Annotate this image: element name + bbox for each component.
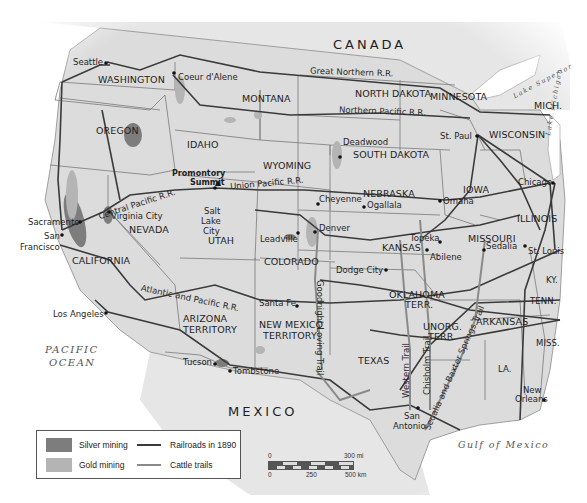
city-denver: Denver [319,224,350,233]
label-iowa: IOWA [463,185,489,195]
city-san-francisco-1: San [44,232,60,241]
city-santa-fe: Santa Fe [259,299,296,308]
label-wisconsin: WISCONSIN [489,130,545,140]
label-minnesota: MINNESOTA [430,92,487,102]
scale-mi-end: 300 mi [344,452,364,459]
label-texas: TEXAS [358,356,389,366]
city-omaha: Omaha [443,197,474,206]
label-pacific-1: PACIFIC [45,345,99,355]
label-idaho: IDAHO [187,140,219,150]
city-st-louis: St. Louis [528,247,564,256]
city-salt-lake-2: Lake [201,217,221,226]
label-nebraska: NEBRASKA [363,189,415,199]
city-salt-lake-3: City [203,227,220,236]
label-oregon: OREGON [96,126,139,136]
label-pacific-2: OCEAN [49,358,96,368]
label-tennessee: TENN. [530,297,556,306]
label-arkansas: ARKANSAS [476,317,528,327]
label-canada: CANADA [333,38,406,51]
city-sedalia: Sedalia [486,242,517,251]
label-oklahoma-2: TERR. [405,300,433,310]
label-colorado: COLORADO [264,257,319,267]
label-goodnight-loving-trail: Goodnight-Loving Trail [316,280,325,375]
label-utah: UTAH [208,236,234,246]
city-st-paul: St. Paul [440,132,472,141]
label-gulf-of-mexico: Gulf of Mexico [458,440,549,450]
label-washington: WASHINGTON [98,75,165,85]
city-seattle: Seattle [73,58,103,67]
city-leadville: Leadville [260,235,298,244]
city-sacramento: Sacramento [28,218,79,227]
cattle-trail-line-icon [137,464,161,466]
map-legend: Silver mining Gold mining Railroads in 1… [36,430,241,479]
label-mexico: MEXICO [228,405,297,418]
label-montana: MONTANA [242,94,291,104]
gold-mining-swatch [46,458,72,472]
city-topeka: Topeka [410,234,440,243]
legend-silver-label: Silver mining [79,440,128,450]
scale-km-start: 0 [268,471,272,478]
label-arizona-1: ARIZONA [183,314,227,324]
city-cheyenne: Cheyenne [319,195,362,204]
label-mississippi: MISS. [536,339,560,348]
city-coeur-dalene: Coeur d'Alene [178,73,238,82]
silver-mining-swatch [46,438,72,452]
city-promontory-1: Promontory [172,170,225,178]
city-san-antonio-2: Antonio [393,422,426,431]
city-san-francisco-2: Francisco [20,243,60,252]
label-california: CALIFORNIA [72,256,130,266]
label-arizona-2: TERRITORY [183,325,237,335]
city-san-antonio-1: San [404,412,420,421]
label-north-dakota: NORTH DAKOTA [355,89,431,99]
label-louisiana: LA. [498,365,512,374]
legend-railroads-label: Railroads in 1890 [170,440,236,450]
label-illinois: ILLINOIS [517,214,557,224]
label-michigan: MICH. [534,101,562,111]
map-canvas [0,0,587,503]
railroad-line-icon [137,444,161,446]
vignette [0,0,587,503]
label-south-dakota: SOUTH DAKOTA [353,150,429,160]
label-new-mexico-2: TERRITORY [263,331,317,341]
scale-mi-start: 0 [268,452,272,459]
label-chisholm-trail: Chisholm Trail [423,336,432,395]
scale-km-mid: 250 [306,471,317,478]
city-deadwood: Deadwood [343,138,388,147]
city-los-angeles: Los Angeles [53,310,104,319]
label-kansas: KANSAS [382,243,421,253]
label-wyoming: WYOMING [263,161,311,171]
label-new-mexico-1: NEW MEXICO [259,320,323,330]
city-abilene: Abilene [430,253,462,262]
legend-cattle-label: Cattle trails [170,460,213,470]
scale-km-end: 500 km [345,471,366,478]
label-western-trail: Western Trail [402,343,411,398]
city-new-orleans-2: Orleans [515,395,548,404]
legend-gold-label: Gold mining [79,460,124,470]
city-salt-lake-1: Salt [204,207,220,216]
city-chicago: Chicago [518,178,552,187]
scale-bar: 0 300 mi 0 250 500 km [268,452,368,482]
city-dodge-city: Dodge City [336,266,383,275]
scale-km-bar [268,465,354,470]
city-tombstone: Tombstone [233,367,279,376]
city-tucson: Tucson [183,358,212,367]
city-ogallala: Ogallala [367,201,402,210]
city-promontory-2: Summit [190,179,225,187]
label-unorg-2: TERR. [428,332,456,342]
label-nevada: NEVADA [129,225,169,235]
label-kentucky: KY. [546,276,558,285]
